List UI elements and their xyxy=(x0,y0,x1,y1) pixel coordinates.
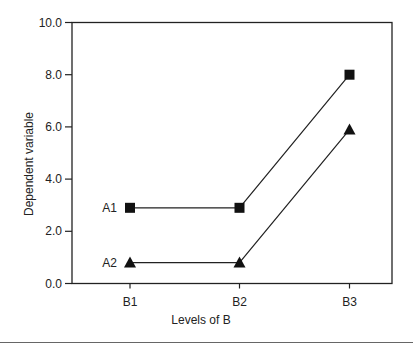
line-chart: 0.02.04.06.08.010.0 B1B2B3 A1A2 Levels o… xyxy=(0,0,417,349)
bottom-rule-divider xyxy=(0,342,413,343)
x-axis-ticks: B1B2B3 xyxy=(123,284,358,309)
x-axis-title: Levels of B xyxy=(171,313,230,327)
square-marker-icon xyxy=(125,203,135,213)
y-axis-ticks: 0.02.04.06.08.010.0 xyxy=(39,16,72,291)
y-tick-label: 8.0 xyxy=(45,68,62,82)
y-tick-label: 10.0 xyxy=(39,16,63,30)
triangle-marker-icon xyxy=(344,124,356,135)
x-tick-label: B1 xyxy=(123,295,138,309)
series-label-a1: A1 xyxy=(102,201,117,215)
square-marker-icon xyxy=(345,70,355,80)
y-tick-label: 6.0 xyxy=(45,120,62,134)
square-marker-icon xyxy=(235,203,245,213)
series-line-a1 xyxy=(130,75,350,208)
plot-frame xyxy=(72,23,392,284)
y-tick-label: 4.0 xyxy=(45,172,62,186)
series-line-a2 xyxy=(130,130,350,263)
y-tick-label: 0.0 xyxy=(45,277,62,291)
y-tick-label: 2.0 xyxy=(45,224,62,238)
series-label-a2: A2 xyxy=(102,256,117,270)
series-group: A1A2 xyxy=(102,70,355,270)
y-axis-title: Dependent variable xyxy=(22,112,36,216)
x-tick-label: B3 xyxy=(342,295,357,309)
x-tick-label: B2 xyxy=(232,295,247,309)
